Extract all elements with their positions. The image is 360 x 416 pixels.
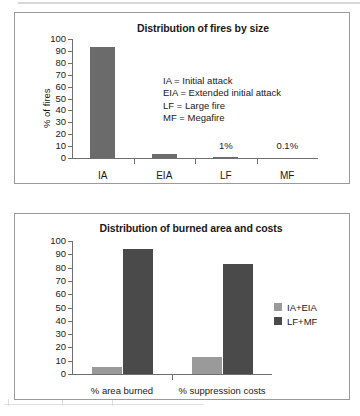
y-axis-tick <box>68 281 72 282</box>
y-axis-tick <box>68 347 72 348</box>
y-axis-tick-label: 40 <box>55 316 66 326</box>
y-axis-tick-label: 30 <box>55 118 66 128</box>
y-axis-tick <box>68 122 72 123</box>
y-axis-tick <box>68 134 72 135</box>
y-axis-tick-label: 30 <box>55 329 66 339</box>
y-axis-tick-label: 60 <box>55 82 66 92</box>
x-axis-tick <box>172 375 173 380</box>
annotation-legend-abbreviations: IA = Initial attack EIA = Extended initi… <box>163 75 281 125</box>
annotation-line: LF = Large fire <box>163 100 281 112</box>
chart-title-fires-by-size: Distribution of fires by size <box>15 22 349 34</box>
y-axis-tick-label: 20 <box>55 129 66 139</box>
scan-artifact-top-rule <box>18 2 360 4</box>
y-axis-tick-label: 100 <box>50 236 66 246</box>
x-axis-category-label: % area burned <box>91 385 153 396</box>
y-axis-tick-label: 90 <box>55 46 66 56</box>
y-axis-tick-label: 40 <box>55 106 66 116</box>
y-axis-tick <box>68 321 72 322</box>
y-axis-tick-label: 90 <box>55 250 66 260</box>
y-axis-tick <box>68 268 72 269</box>
y-axis-line <box>72 39 73 159</box>
scan-artifact-tick <box>8 399 9 406</box>
y-axis-tick <box>68 374 72 375</box>
bar-lf <box>213 157 238 158</box>
y-axis-tick-label: 10 <box>55 141 66 151</box>
x-axis-category-label: % suppression costs <box>178 385 265 396</box>
y-axis-tick-label: 50 <box>55 303 66 313</box>
y-axis-tick <box>68 110 72 111</box>
scan-artifact-tick <box>112 399 113 406</box>
y-axis-tick-label: 70 <box>55 70 66 80</box>
y-axis-tick-label: 80 <box>55 263 66 273</box>
legend-swatch-lf-mf <box>274 317 282 325</box>
y-axis-line <box>72 241 73 375</box>
y-axis-tick-label: 50 <box>55 94 66 104</box>
y-axis-tick <box>68 241 72 242</box>
annotation-line: MF = Megafire <box>163 112 281 124</box>
x-axis-tick <box>257 159 258 164</box>
legend-swatch-ia-eia <box>274 303 282 311</box>
y-axis-tick-label: 0 <box>61 153 66 163</box>
bar-ia <box>90 47 115 158</box>
y-axis-tick <box>68 63 72 64</box>
legend-item: IA+EIA <box>274 300 317 314</box>
bar-lf-mf <box>223 264 253 374</box>
chart-title-burned-area-and-costs: Distribution of burned area and costs <box>15 222 349 234</box>
y-axis-tick-label: 100 <box>50 34 66 44</box>
x-axis-tick <box>195 159 196 164</box>
plot-area-burned-area-and-costs: 0102030405060708090100% area burned% sup… <box>72 241 272 375</box>
y-axis-tick-label: 80 <box>55 58 66 68</box>
y-axis-title-fires: % of fires <box>41 88 52 128</box>
y-axis-tick <box>68 99 72 100</box>
bar-ia-eia <box>192 357 222 374</box>
y-axis-tick <box>68 334 72 335</box>
y-axis-tick-label: 10 <box>55 356 66 366</box>
chart-legend-burned-area: IA+EIA LF+MF <box>274 300 317 328</box>
data-label-mf: 0.1% <box>276 140 298 151</box>
y-axis-tick <box>68 254 72 255</box>
y-axis-tick <box>68 39 72 40</box>
annotation-line: IA = Initial attack <box>163 75 281 87</box>
bar-lf-mf <box>123 249 153 374</box>
bar-eia <box>152 154 177 158</box>
y-axis-tick <box>68 146 72 147</box>
scan-artifact-tick <box>62 399 63 406</box>
chart-panel-fires-by-size: Distribution of fires by size % of fires… <box>14 12 350 184</box>
legend-item: LF+MF <box>274 314 317 328</box>
y-axis-tick-label: 0 <box>61 369 66 379</box>
legend-label: LF+MF <box>287 316 317 327</box>
y-axis-tick <box>68 51 72 52</box>
y-axis-tick-label: 20 <box>55 343 66 353</box>
y-axis-tick-label: 70 <box>55 276 66 286</box>
y-axis-tick <box>68 75 72 76</box>
y-axis-tick-label: 60 <box>55 289 66 299</box>
annotation-line: EIA = Extended initial attack <box>163 87 281 99</box>
y-axis-tick <box>68 361 72 362</box>
x-axis-category-label: LF <box>220 170 232 181</box>
legend-label: IA+EIA <box>287 302 317 313</box>
y-axis-tick <box>68 87 72 88</box>
y-axis-tick <box>68 158 72 159</box>
data-label-lf: 1% <box>219 140 233 151</box>
x-axis-category-label: EIA <box>156 170 172 181</box>
x-axis-category-label: IA <box>98 170 107 181</box>
bar-ia-eia <box>92 367 122 374</box>
x-axis-category-label: MF <box>280 170 294 181</box>
y-axis-tick <box>68 294 72 295</box>
x-axis-tick <box>134 159 135 164</box>
scan-artifact-bottom-rule <box>4 404 204 405</box>
y-axis-tick <box>68 308 72 309</box>
